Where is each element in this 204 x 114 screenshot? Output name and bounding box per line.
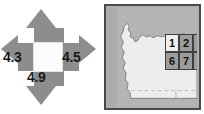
arrow-north-body	[34, 28, 64, 43]
arrow-east-head-icon	[79, 35, 96, 63]
grid-cell[interactable]: 7	[179, 52, 193, 70]
map-frame: 1 2 3 6 7 8	[104, 4, 201, 110]
arrow-north-head-icon	[26, 9, 56, 28]
arrow-value-east: 4.5	[62, 50, 81, 64]
grid-cell[interactable]: 8	[193, 52, 197, 70]
arrow-diagram-panel: 4.3 4.5 4.9	[0, 0, 100, 114]
map-panel: 1 2 3 6 7 8	[104, 4, 201, 110]
grid-cell[interactable]: 1	[165, 34, 179, 52]
arrow-south-head-icon	[26, 86, 56, 105]
grid-cell[interactable]: 2	[179, 34, 193, 52]
grid-cell[interactable]: 3	[193, 34, 197, 52]
grid-cell[interactable]: 6	[165, 52, 179, 70]
arrow-value-west: 4.3	[3, 50, 22, 64]
map-grid-overlay[interactable]: 1 2 3 6 7 8	[165, 34, 197, 70]
map-canvas: 1 2 3 6 7 8	[108, 8, 197, 106]
four-direction-arrow: 4.3 4.5 4.9	[0, 6, 100, 108]
arrow-center-cell	[33, 42, 63, 72]
arrow-value-south: 4.9	[27, 70, 46, 84]
